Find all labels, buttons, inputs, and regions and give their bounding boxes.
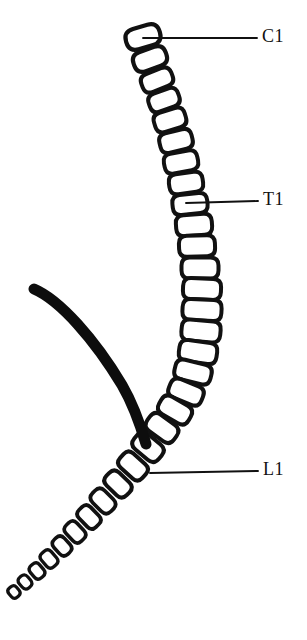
label-c1: C1 <box>262 26 284 46</box>
spine-illustration: C1T1L1 <box>0 0 307 640</box>
vertebra-t4 <box>179 235 216 257</box>
vertebra-t6 <box>183 278 222 300</box>
spine-diagram-figure: C1T1L1 <box>0 0 307 640</box>
rib-arc-group <box>34 289 146 444</box>
leader-line-l1 <box>150 471 258 473</box>
rib-arc-icon <box>34 289 146 444</box>
label-l1: L1 <box>263 459 284 479</box>
vertebrae-chain <box>6 22 222 600</box>
vertebra-co3 <box>6 584 21 600</box>
label-t1: T1 <box>263 189 284 209</box>
vertebra-t5 <box>182 258 219 279</box>
